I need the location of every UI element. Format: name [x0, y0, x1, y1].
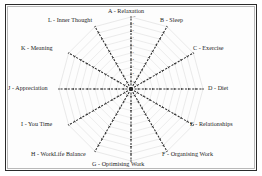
screenshot-root: A - RelaxationB - SleepC - ExerciseD - D… — [0, 0, 262, 176]
axis-label-f: F - Organising Work — [162, 151, 213, 157]
axis-label-k: K - Meaning — [21, 45, 53, 51]
axis-label-e: E - Relationships — [190, 121, 233, 127]
radial-tick-label: 9 — [133, 23, 134, 26]
radial-tick-label: 2 — [133, 73, 134, 76]
radar-tick — [166, 26, 168, 27]
axis-label-i: I - You Time — [21, 121, 52, 127]
axis-label-g: G - Optimising Work — [92, 161, 144, 167]
axis-label-b: B - Sleep — [160, 17, 183, 23]
axis-label-a: A - Relaxation — [108, 8, 144, 14]
radial-tick-label: 7 — [133, 37, 134, 40]
axis-label-c: C - Exercise — [193, 45, 224, 51]
radial-tick-label: 1 — [133, 81, 134, 84]
radial-tick-label: 5 — [133, 52, 134, 55]
radial-tick-label: 4 — [133, 59, 134, 62]
radar-tick — [68, 124, 69, 126]
radial-tick-label: 6 — [133, 45, 134, 48]
radial-tick-label: 8 — [133, 30, 134, 33]
axis-label-l: L - Inner Thought — [48, 17, 92, 23]
radar-tick — [68, 52, 69, 54]
radial-tick-label: 10 — [133, 16, 136, 19]
axis-label-d: D - Diet — [208, 85, 228, 91]
radar-center-point — [129, 87, 133, 91]
axis-label-h: H - WorkLife Balance — [31, 151, 86, 157]
radar-tick — [94, 26, 96, 27]
radar-tick — [193, 52, 194, 54]
radar-tick — [94, 151, 96, 152]
axis-label-j: J - Appreciation — [8, 85, 48, 91]
radial-tick-label: 3 — [133, 66, 134, 69]
